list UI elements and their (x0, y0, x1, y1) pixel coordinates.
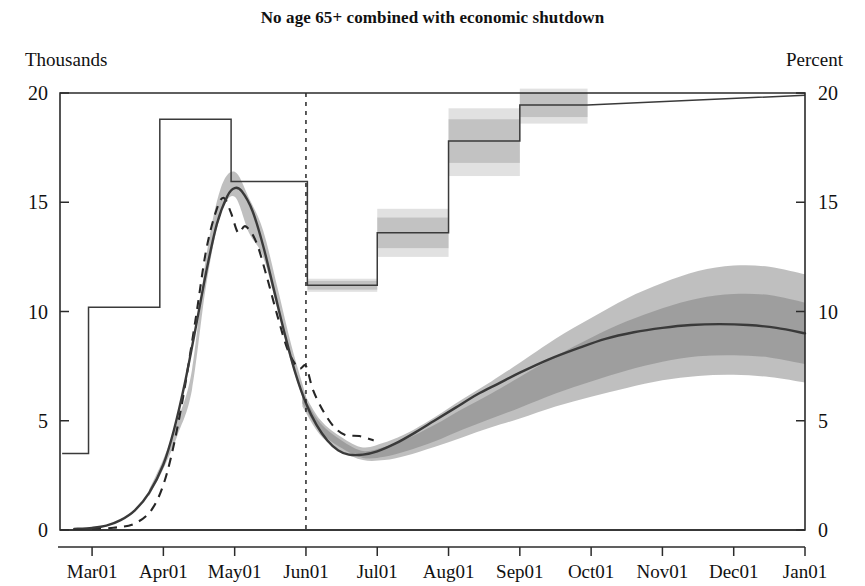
y-tick-label-left: 0 (38, 519, 48, 541)
y-tick-label-right: 10 (818, 301, 838, 323)
x-tick-label: Apr01 (139, 561, 188, 582)
y-tick-label-right: 0 (818, 519, 828, 541)
x-tick-label: Sep01 (496, 561, 544, 582)
y-tick-label-left: 20 (28, 82, 48, 104)
x-tick-label: Oct01 (568, 561, 614, 582)
x-tick-label: Jan01 (783, 561, 827, 582)
x-tick-label: Dec01 (709, 561, 759, 582)
y-tick-label-right: 15 (818, 191, 838, 213)
x-tick-label: Jul01 (357, 561, 398, 582)
deaths-actual-dashed-line (92, 198, 374, 529)
x-tick-label: Jun01 (283, 561, 328, 582)
y-tick-label-right: 5 (818, 410, 828, 432)
step-uncertainty-bands (307, 89, 587, 292)
chart-plot-area: 0055101015152020Mar01Apr01May01Jun01Jul0… (0, 0, 865, 586)
y-tick-label-left: 15 (28, 191, 48, 213)
y-tick-label-right: 20 (818, 82, 838, 104)
x-tick-label: Mar01 (67, 561, 118, 582)
figure-container: No age 65+ combined with economic shutdo… (0, 0, 865, 586)
x-tick-label: Aug01 (423, 561, 475, 582)
y-tick-label-left: 10 (28, 301, 48, 323)
x-tick-label: May01 (208, 561, 262, 582)
x-tick-label: Nov01 (637, 561, 689, 582)
fan-bands (302, 265, 805, 461)
y-tick-label-left: 5 (38, 410, 48, 432)
